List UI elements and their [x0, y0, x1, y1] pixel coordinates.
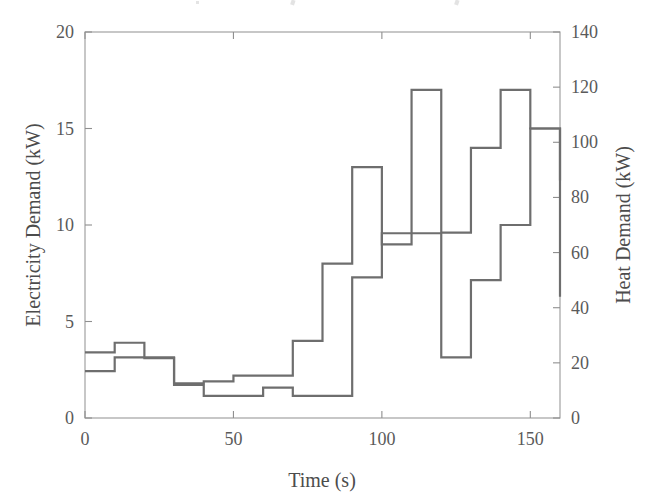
- right-tick-label: 0: [571, 408, 580, 428]
- right-tick-label: 40: [571, 298, 589, 318]
- right-axis-title: Heat Demand (kW): [612, 146, 635, 304]
- right-tick-label: 20: [571, 353, 589, 373]
- x-axis: 050100150: [81, 32, 544, 449]
- left-tick-label: 15: [56, 119, 74, 139]
- x-tick-label: 100: [368, 429, 395, 449]
- left-axis-title: Electricity Demand (kW): [22, 123, 45, 326]
- left-tick-label: 10: [56, 215, 74, 235]
- x-tick-label: 150: [517, 429, 544, 449]
- left-tick-label: 20: [56, 22, 74, 42]
- demand-step-chart: 05101520 020406080100120140 050100150 El…: [0, 0, 663, 500]
- right-tick-label: 120: [571, 77, 598, 97]
- right-tick-label: 140: [571, 22, 598, 42]
- x-axis-title: Time (s): [288, 469, 356, 492]
- chart-page: 05101520 020406080100120140 050100150 El…: [0, 0, 663, 500]
- left-tick-label: 0: [65, 408, 74, 428]
- right-tick-label: 60: [571, 243, 589, 263]
- scan-artifact-smudges: [196, 0, 460, 5]
- x-tick-label: 0: [81, 429, 90, 449]
- series-group: [85, 90, 560, 396]
- x-tick-label: 50: [224, 429, 242, 449]
- right-tick-label: 80: [571, 187, 589, 207]
- series-electricity-demand: [85, 90, 560, 383]
- series-heat-demand: [85, 129, 560, 396]
- left-y-axis: 05101520: [56, 22, 92, 428]
- right-tick-label: 100: [571, 132, 598, 152]
- plot-frame: [85, 32, 560, 418]
- left-tick-label: 5: [65, 312, 74, 332]
